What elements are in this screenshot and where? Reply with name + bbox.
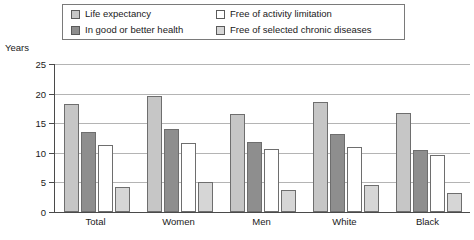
x-axis-tick-labels: TotalWomenMenWhiteBlack bbox=[54, 216, 469, 227]
y-tick-mark bbox=[49, 123, 54, 124]
bar[interactable] bbox=[181, 143, 196, 212]
bar[interactable] bbox=[413, 150, 428, 212]
legend-label-in-good-or-better-health: In good or better health bbox=[85, 22, 183, 38]
bar[interactable] bbox=[81, 132, 96, 213]
legend-swatch-free-of-activity-limitation bbox=[216, 10, 225, 19]
bar[interactable] bbox=[230, 114, 245, 212]
x-tick-label: Total bbox=[54, 216, 137, 227]
bar[interactable] bbox=[330, 134, 345, 212]
bar-groups bbox=[55, 64, 470, 212]
bar-group bbox=[304, 64, 387, 212]
x-tick-label: Black bbox=[386, 216, 469, 227]
y-tick-label: 25 bbox=[24, 59, 46, 70]
bar[interactable] bbox=[164, 129, 179, 212]
bar[interactable] bbox=[198, 182, 213, 212]
bar[interactable] bbox=[147, 96, 162, 212]
y-tick-mark bbox=[49, 64, 54, 65]
bar[interactable] bbox=[364, 185, 379, 212]
legend-swatch-life-expectancy bbox=[71, 10, 80, 19]
bar[interactable] bbox=[347, 147, 362, 212]
legend-item-in-good-or-better-health: In good or better health bbox=[71, 22, 216, 38]
y-tick-label: 20 bbox=[24, 88, 46, 99]
y-tick-mark bbox=[49, 182, 54, 183]
bar[interactable] bbox=[281, 190, 296, 212]
y-tick-mark bbox=[49, 212, 54, 213]
x-tick-label: Men bbox=[220, 216, 303, 227]
bar[interactable] bbox=[264, 149, 279, 212]
bar[interactable] bbox=[447, 193, 462, 212]
legend-item-free-of-activity-limitation: Free of activity limitation bbox=[216, 6, 404, 22]
bar[interactable] bbox=[247, 142, 262, 212]
y-tick-label: 5 bbox=[24, 177, 46, 188]
x-tick-label: Women bbox=[137, 216, 220, 227]
legend-item-free-of-selected-chronic-diseases: Free of selected chronic diseases bbox=[216, 22, 404, 38]
bar[interactable] bbox=[313, 102, 328, 212]
legend-label-life-expectancy: Life expectancy bbox=[85, 6, 151, 22]
chart-legend: Life expectancy Free of activity limitat… bbox=[62, 4, 405, 40]
legend-label-free-of-activity-limitation: Free of activity limitation bbox=[230, 6, 332, 22]
y-tick-label: 15 bbox=[24, 118, 46, 129]
y-axis-title: Years bbox=[5, 42, 29, 53]
legend-swatch-free-of-selected-chronic-diseases bbox=[216, 26, 225, 35]
bar[interactable] bbox=[64, 104, 79, 212]
bar-group bbox=[387, 64, 470, 212]
y-tick-mark bbox=[49, 94, 54, 95]
y-tick-label: 0 bbox=[24, 207, 46, 218]
bar-group bbox=[221, 64, 304, 212]
legend-item-life-expectancy: Life expectancy bbox=[71, 6, 216, 22]
bar[interactable] bbox=[430, 155, 445, 212]
x-tick-label: White bbox=[303, 216, 386, 227]
y-tick-mark bbox=[49, 153, 54, 154]
legend-swatch-in-good-or-better-health bbox=[71, 26, 80, 35]
bar[interactable] bbox=[396, 113, 411, 212]
y-tick-label: 10 bbox=[24, 147, 46, 158]
plot-frame bbox=[54, 64, 470, 213]
chart-plot-area: 2520151050 TotalWomenMenWhiteBlack bbox=[0, 58, 474, 240]
legend-label-free-of-selected-chronic-diseases: Free of selected chronic diseases bbox=[230, 22, 372, 38]
y-axis-tick-labels: 2520151050 bbox=[24, 58, 46, 213]
bar-group bbox=[55, 64, 138, 212]
bar[interactable] bbox=[98, 145, 113, 212]
bar[interactable] bbox=[115, 187, 130, 212]
bar-group bbox=[138, 64, 221, 212]
